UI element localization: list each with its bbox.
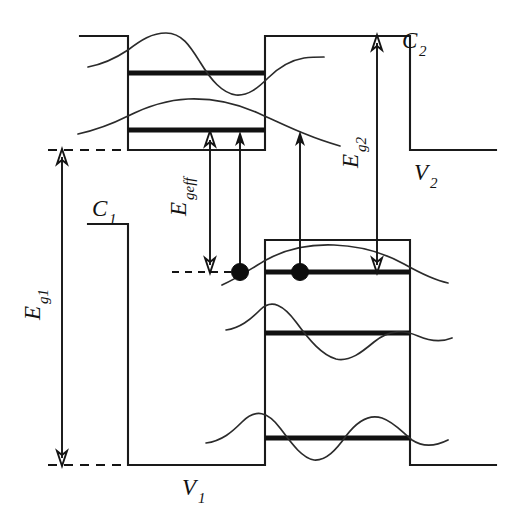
label-c2: C 2 — [402, 28, 427, 59]
electron-dot-1 — [232, 264, 249, 281]
measure-arrow-eg2 — [372, 35, 382, 273]
transition-arrow-2 — [295, 131, 305, 272]
label-eg2: E g2 — [338, 137, 369, 170]
label-eg1-sub: g1 — [35, 289, 51, 304]
label-eg2-sub: g2 — [353, 137, 369, 153]
label-eg2-base: E — [338, 154, 363, 169]
label-c1-sub: 1 — [109, 211, 117, 227]
upper-well-levels — [128, 73, 265, 130]
upper-band-edge-group — [80, 36, 496, 150]
label-v1-base: V — [182, 475, 199, 500]
label-eg1: E g1 — [20, 289, 51, 321]
label-c2-base: C — [402, 28, 418, 53]
electron-dot-2 — [292, 264, 309, 281]
wavefunction-upper-1 — [88, 33, 324, 95]
lower-band-edge-path — [88, 224, 496, 465]
label-c1: C 1 — [92, 196, 117, 227]
label-eg1-base: E — [20, 306, 45, 321]
wavefunction-lower-1 — [222, 245, 448, 285]
label-egeff-sub: geff — [181, 176, 197, 200]
label-v2-sub: 2 — [430, 175, 438, 191]
label-egeff: E geff — [166, 176, 197, 217]
label-egeff-base: E — [166, 202, 191, 217]
label-v2-base: V — [414, 160, 431, 185]
transition-arrow-1 — [235, 131, 245, 272]
measure-arrow-egeff — [205, 131, 215, 273]
label-v1-sub: 1 — [198, 490, 206, 506]
measure-arrow-eg1 — [57, 149, 67, 466]
label-c1-base: C — [92, 196, 108, 221]
upper-band-edge-path — [80, 36, 496, 150]
label-v1: V 1 — [182, 475, 206, 506]
label-v2: V 2 — [414, 160, 438, 191]
label-c2-sub: 2 — [419, 43, 427, 59]
lower-band-edge-group — [88, 224, 496, 465]
band-diagram-figure: C 2 V 2 C 1 V 1 E g1 E g2 E — [0, 0, 506, 514]
lower-well-levels — [265, 272, 410, 438]
band-diagram-canvas: C 2 V 2 C 1 V 1 E g1 E g2 E — [0, 0, 506, 514]
